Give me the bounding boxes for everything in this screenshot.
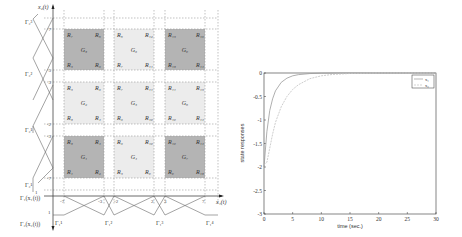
gamma2-label-1b: Γ₂¹ (25, 182, 33, 188)
gamma1-label-3: Γ₁³ (156, 220, 164, 226)
rule-label: R₁₆ (195, 32, 204, 38)
y-tick-label: -2 (257, 164, 262, 170)
gamma2-label-2: Γ₂² (25, 71, 33, 77)
y-axis-arrow-icon (52, 4, 55, 9)
rule-label: R₁₄ (195, 115, 204, 121)
gamma1-label-4: Γ₁⁴ (206, 220, 214, 226)
x-tick-label: 15 (347, 216, 353, 222)
rule-label: R₂ (94, 169, 101, 175)
x-tick: 2 (151, 199, 154, 204)
rule-label: R₁ (66, 169, 73, 175)
plot-area (264, 73, 436, 214)
rule-label: R₁₄ (195, 139, 204, 145)
legend-x2: x₂ (425, 83, 429, 88)
rule-label: R₁₀ (144, 139, 153, 145)
y-tick: 5 (49, 68, 52, 73)
rule-label: R₆ (94, 62, 101, 68)
y-tick-label: -1 (257, 117, 262, 123)
region-label: G₉ (182, 47, 188, 53)
rule-label: R₁₅ (167, 32, 176, 38)
x-tick: -3 (98, 199, 103, 204)
one-label: 1 (48, 210, 51, 215)
rule-label: R₁₅ (195, 85, 204, 91)
rule-label: R₁₁ (144, 85, 153, 91)
rule-label: R₆ (94, 85, 101, 91)
x-tick-label: 25 (405, 216, 411, 222)
left-membership-functions (33, 14, 53, 192)
gamma1-label-1: Γ₁¹ (55, 220, 63, 226)
y-axis-title: state responses (239, 123, 245, 162)
membership-x-label: Γ₁(x₁(t)) (20, 195, 40, 202)
rule-label: R₁₃ (167, 62, 176, 68)
rule-label: R₃ (66, 139, 73, 145)
gamma1-label-2: Γ₁² (105, 220, 113, 226)
y-tick-label: -2.5 (253, 188, 262, 194)
rule-label: R₇ (116, 85, 123, 91)
rule-label: R₇ (116, 62, 123, 68)
membership-y-label: Γ₂(x₂(t)) (20, 221, 40, 228)
x-tick-label: 10 (319, 216, 325, 222)
region-label: G₆ (131, 47, 137, 53)
x-axis-arrow-icon (219, 195, 224, 198)
y-tick-label: -0.5 (253, 94, 262, 100)
rule-label: R₈ (94, 32, 101, 38)
y-tick: 7 (49, 27, 52, 32)
x-tick: -7 (60, 199, 65, 204)
region-label: G₈ (182, 100, 188, 106)
region-label: G₃ (81, 47, 87, 53)
x-tick: 3 (164, 199, 167, 204)
bottom-membership-functions (53, 196, 218, 215)
rule-label: R₉ (144, 169, 151, 175)
y-tick: -2 (47, 122, 52, 127)
rule-label: R₆ (116, 139, 123, 145)
x-tick: -2 (114, 199, 119, 204)
rule-label: R₁₄ (195, 62, 204, 68)
rule-label: R₅ (66, 62, 73, 68)
x-tick-label: 0 (263, 216, 266, 222)
rule-label: R₅ (66, 85, 73, 91)
legend-x1: x₁ (425, 77, 429, 82)
y-tick-label: -1.5 (253, 141, 262, 147)
rule-label: R₉ (167, 169, 174, 175)
x-tick-label: 20 (376, 216, 382, 222)
rule-label: R₁₀ (167, 115, 176, 121)
rule-label: R₄ (94, 139, 101, 145)
rule-label: R₁₁ (167, 85, 176, 91)
y-tick-label: -3 (257, 211, 262, 217)
rule-label: R₁₀ (167, 139, 176, 145)
y-tick: -3 (47, 134, 52, 139)
rule-label: R₇ (66, 32, 73, 38)
gamma2-label-1: Γ₂¹ (25, 127, 33, 133)
x-axis-title: time (sec.) (337, 223, 363, 229)
y-tick: -7 (47, 176, 52, 181)
rule-label: R₅ (116, 169, 123, 175)
x-tick-label: 5 (291, 216, 294, 222)
rule-label: R₆ (116, 115, 123, 121)
rule-label: R₁₀ (144, 115, 153, 121)
region-label: G₂ (81, 100, 87, 106)
region-label: G₁ (81, 154, 87, 160)
y-tick-label: 0 (259, 70, 262, 76)
rule-label: R₁₃ (195, 169, 204, 175)
gamma2-label-3: Γ₂³ (25, 19, 33, 25)
rule-label: R₄ (94, 115, 101, 121)
y-tick: 3 (49, 80, 52, 85)
rule-label: R₃ (66, 115, 73, 121)
rule-label: R₈ (116, 32, 123, 38)
region-label: G₇ (182, 154, 188, 160)
region-label: G₄ (131, 154, 137, 160)
x-axis-label: x₁(t) (215, 199, 226, 206)
x-tick: 7 (202, 199, 205, 204)
rule-label: R₁₁ (144, 62, 153, 68)
rule-label: R₁₂ (144, 32, 153, 38)
fuzzy-partition-diagram: x₂(t) x₁(t) Γ₁(x₁(t)) Γ₂(x₂(t)) Γ₂³ Γ₂² … (0, 0, 232, 237)
y-axis-label: x₂(t) (37, 4, 48, 11)
membership-y-arrow-icon (52, 226, 55, 231)
state-response-chart: 0510152025300-0.5-1-1.5-2-2.5-3 time (se… (232, 0, 462, 237)
legend: x₁ x₂ (412, 75, 434, 88)
x-tick-label: 30 (433, 216, 439, 222)
region-label: G₅ (131, 100, 137, 106)
